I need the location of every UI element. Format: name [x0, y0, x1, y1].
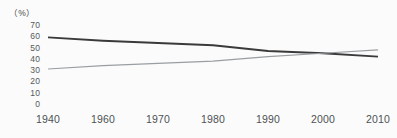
x-tick-label: 1980 — [201, 113, 225, 125]
line-chart-figure: （%） 706050403020100 19401960197019801990… — [0, 0, 397, 138]
x-tick-label: 1990 — [256, 113, 280, 125]
x-tick-label: 1960 — [91, 113, 115, 125]
x-tick-label: 2010 — [366, 113, 390, 125]
x-tick-label: 2000 — [311, 113, 335, 125]
x-axis-tick-labels: 1940196019701980199020002010 — [0, 0, 397, 138]
x-tick-label: 1940 — [36, 113, 60, 125]
x-tick-label: 1970 — [146, 113, 170, 125]
